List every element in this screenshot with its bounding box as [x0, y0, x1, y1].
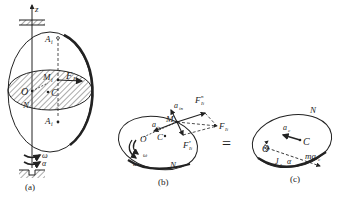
label-FIi-sub: Ii — [72, 76, 77, 82]
label-O: O — [21, 86, 28, 97]
label-omega: ω — [143, 152, 147, 158]
label-F: F — [218, 121, 225, 131]
label-alpha: α — [133, 160, 137, 168]
label-a-itau: a — [152, 120, 156, 129]
label-Ai: A — [44, 34, 51, 44]
label-Jz-sub: z — [279, 162, 282, 167]
label-O: O — [140, 134, 147, 144]
label-ma-c: ma — [305, 151, 316, 161]
label-F-n-sub: Ii — [200, 101, 205, 106]
label-F-sub: Ii — [224, 127, 229, 132]
label-alpha: α — [42, 159, 47, 168]
label-a-itau-sub: iτ — [157, 125, 160, 130]
panel-b: a in F Ii n M i a iτ F Ii F Ii τ O C ω α… — [113, 94, 228, 187]
panel-c: N a c C O ma c J z α (c) — [248, 105, 336, 184]
bottom-bearing — [19, 170, 45, 178]
label-a-c-sub: c — [288, 128, 291, 133]
label-Jz: J — [275, 157, 279, 166]
label-F-tau-sup: τ — [189, 139, 191, 144]
label-Ai-prime-sub: i — [51, 121, 53, 127]
label-a-in: a — [174, 101, 178, 110]
label-Ai-sub: i — [51, 39, 53, 45]
label-FIi: F — [65, 70, 73, 81]
label-F-n: F — [194, 95, 201, 105]
label-O: O — [262, 143, 269, 154]
panel-a: z A i F Ii M i O C N A i ω α — [8, 4, 93, 192]
label-a-in-sub: in — [179, 106, 183, 111]
label-F-tau: F — [182, 140, 189, 150]
caption-b: (b) — [158, 177, 169, 187]
label-F-tau-sub: Ii — [188, 146, 193, 151]
rigid-body-rotation-figure: z A i F Ii M i O C N A i ω α — [0, 0, 344, 204]
caption-a: (a) — [25, 182, 35, 192]
label-Ai-prime: A — [44, 116, 51, 126]
label-a-c: a — [283, 123, 287, 132]
label-ma-c-sub: c — [318, 157, 321, 162]
label-F-n-sup: n — [201, 94, 204, 99]
label-C: C — [303, 136, 310, 147]
rotation-indicators — [129, 140, 138, 158]
label-C: C — [157, 132, 164, 142]
label-N: N — [22, 100, 30, 110]
label-Jz-alpha: α — [287, 157, 292, 166]
label-C: C — [51, 87, 58, 98]
z-axis-label: z — [34, 4, 39, 14]
caption-c: (c) — [290, 174, 300, 184]
equals-sign: = — [222, 135, 231, 152]
label-Mi: M — [42, 72, 51, 82]
label-N: N — [309, 105, 317, 115]
label-N: N — [169, 160, 177, 170]
section-outline — [248, 108, 336, 173]
